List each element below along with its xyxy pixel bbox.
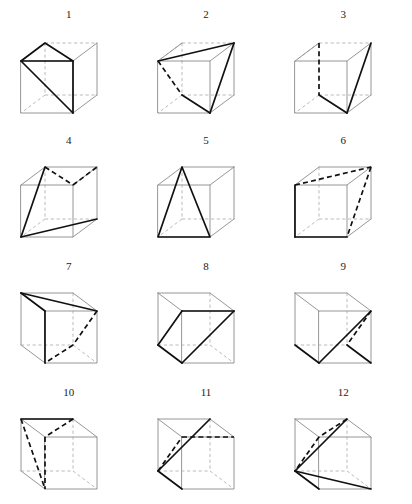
cube-drawing-11 xyxy=(150,397,262,497)
inscribed-triangle xyxy=(21,293,97,363)
inscribed-triangle xyxy=(158,311,234,363)
inscribed-triangle xyxy=(295,311,371,363)
inscribed-triangle xyxy=(21,167,97,237)
cube-figure-11: 11 xyxy=(137,378,274,504)
cube-drawing-3 xyxy=(287,19,399,119)
inscribed-triangle xyxy=(21,419,73,489)
cube-figure-9: 9 xyxy=(275,252,412,378)
cube-drawing-4 xyxy=(13,145,125,245)
inscribed-triangle xyxy=(319,43,371,113)
cube-grid: 1 xyxy=(0,0,412,504)
cube-drawing-10 xyxy=(13,397,125,497)
cube-figure-6: 6 xyxy=(275,126,412,252)
cube-drawing-8 xyxy=(150,271,262,371)
cube-figure-4: 4 xyxy=(0,126,137,252)
cube-drawing-6 xyxy=(287,145,399,245)
inscribed-triangle xyxy=(21,43,73,113)
cube-drawing-12 xyxy=(287,397,399,497)
inscribed-triangle xyxy=(158,43,234,113)
cube-figure-8: 8 xyxy=(137,252,274,378)
cube-figure-5: 5 xyxy=(137,126,274,252)
figure-sheet: 1 xyxy=(0,0,412,504)
cube-figure-10: 10 xyxy=(0,378,137,504)
cube-figure-1: 1 xyxy=(0,0,137,126)
inscribed-triangle xyxy=(158,419,234,489)
cube-drawing-9 xyxy=(287,271,399,371)
cube-drawing-2 xyxy=(150,19,262,119)
cube-figure-3: 3 xyxy=(275,0,412,126)
cube-drawing-7 xyxy=(13,271,125,371)
cube-figure-12: 12 xyxy=(275,378,412,504)
cube-drawing-5 xyxy=(150,145,262,245)
inscribed-triangle xyxy=(158,167,210,237)
cube-drawing-1 xyxy=(13,19,125,119)
cube-figure-7: 7 xyxy=(0,252,137,378)
inscribed-triangle xyxy=(295,167,371,237)
inscribed-triangle xyxy=(295,419,371,489)
cube-figure-2: 2 xyxy=(137,0,274,126)
